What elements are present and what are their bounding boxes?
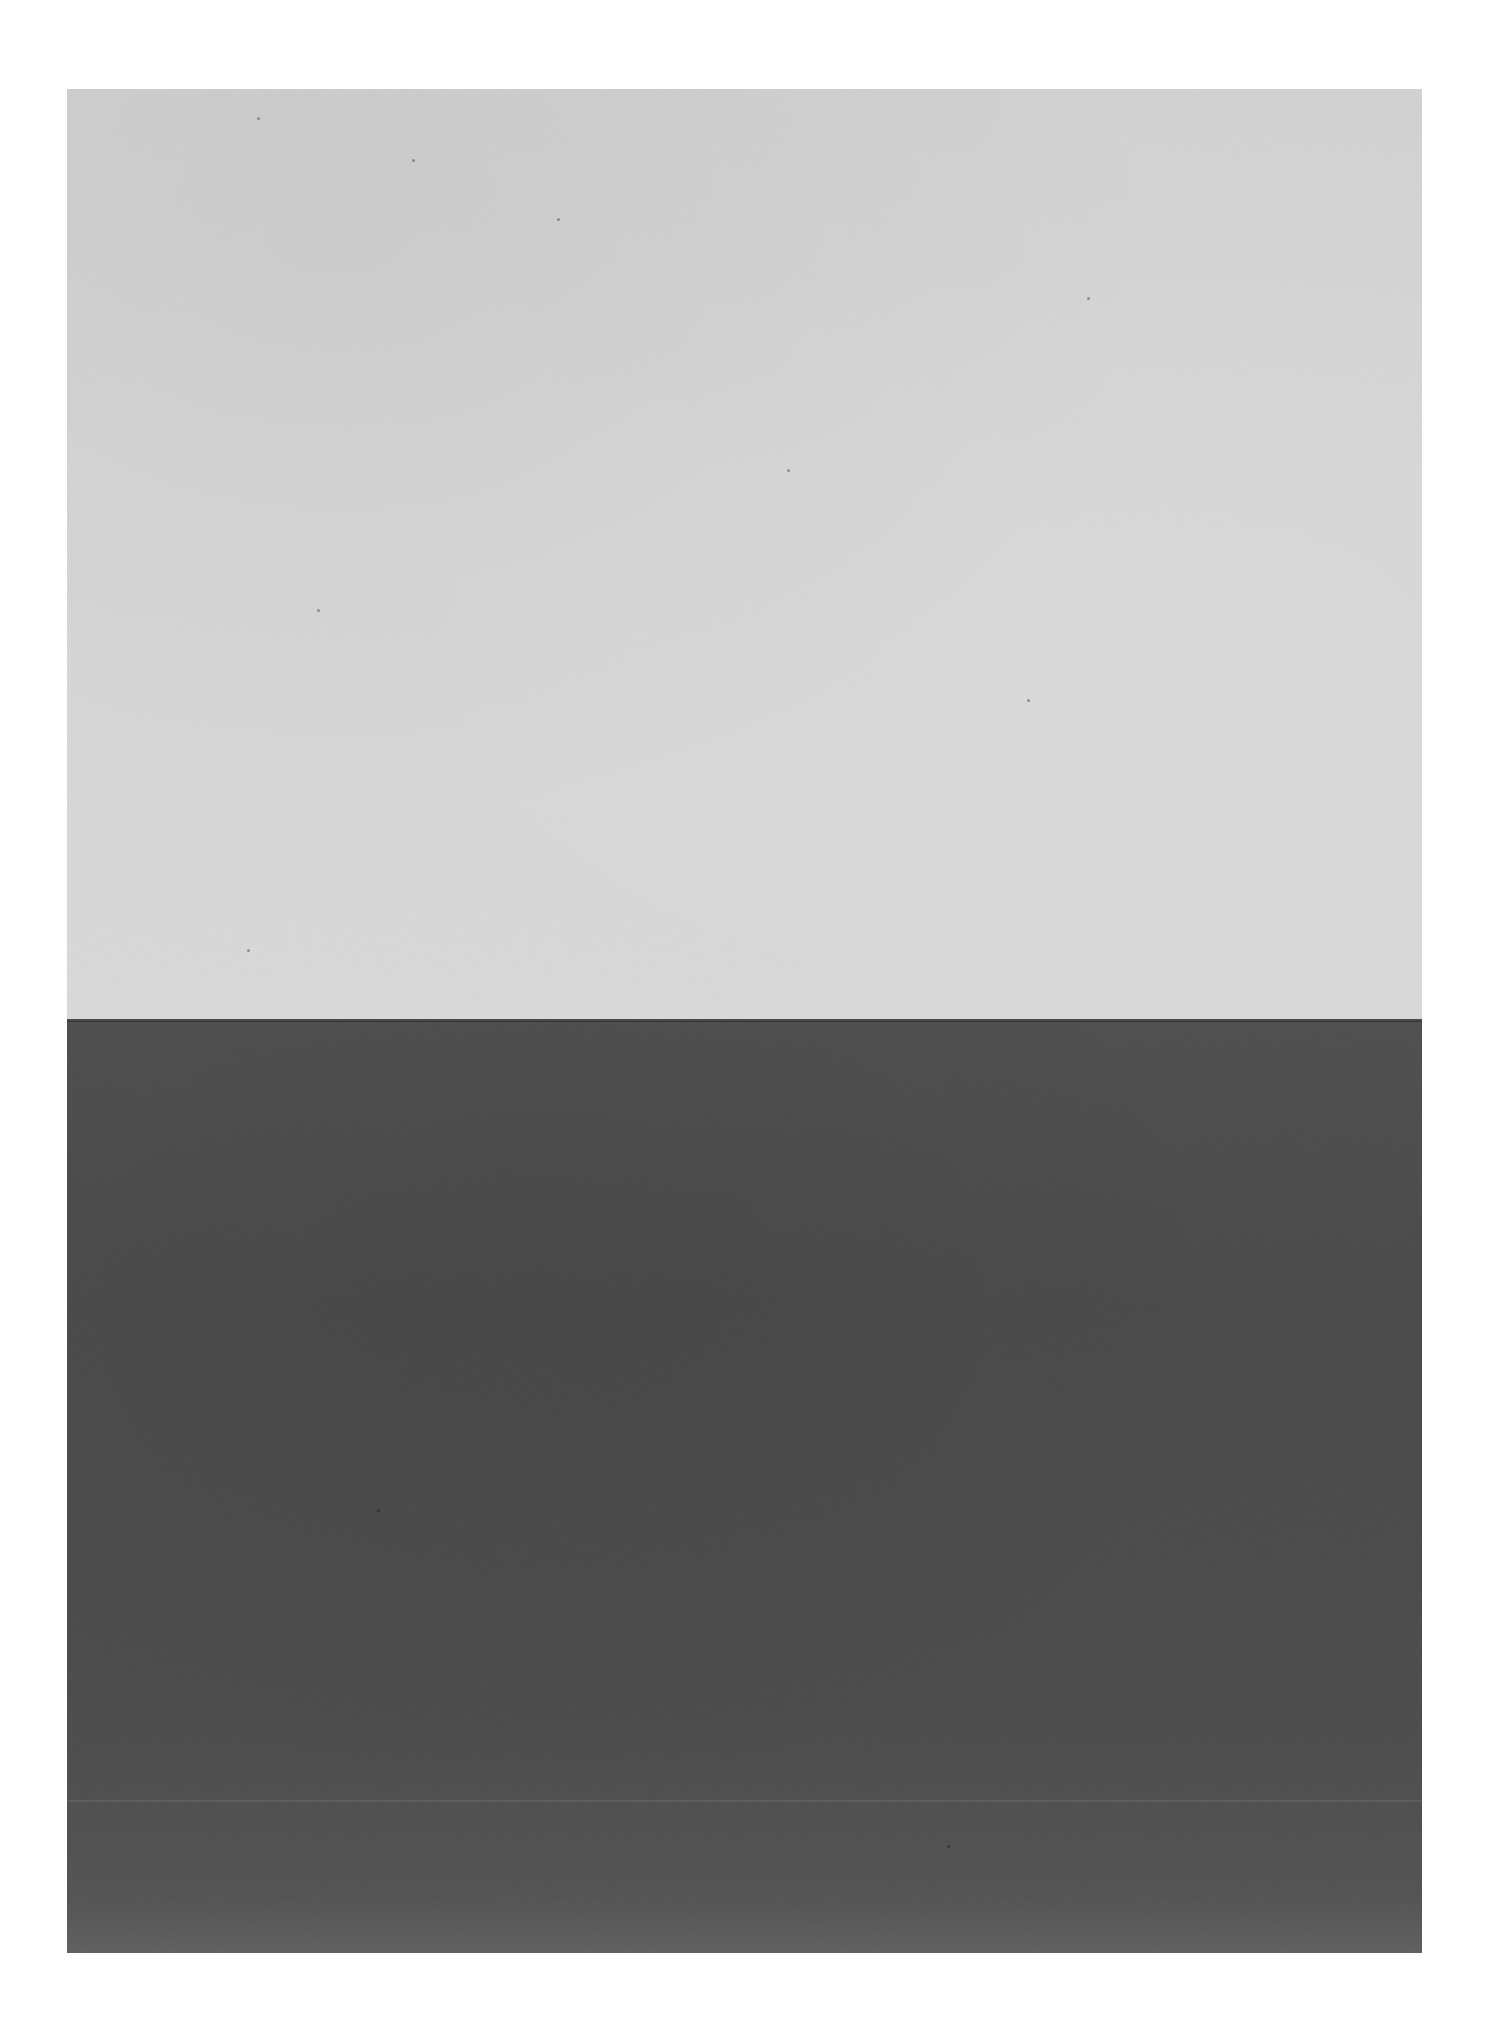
dust-speck [1027, 699, 1030, 702]
dust-speck [377, 1509, 380, 1512]
dust-speck [947, 1845, 950, 1848]
dust-speck [317, 609, 320, 612]
dust-speck [257, 117, 260, 120]
lower-dark-field [67, 1021, 1422, 1953]
artwork-photo [67, 89, 1422, 1953]
dust-speck [787, 469, 790, 472]
dust-speck [557, 218, 560, 221]
dust-speck [247, 949, 250, 952]
upper-gray-field [67, 89, 1422, 1021]
dust-speck [1087, 297, 1090, 300]
faint-scan-line [67, 1800, 1422, 1802]
bottom-edge-glow [67, 1893, 1422, 1953]
horizon-line [67, 1019, 1422, 1022]
dust-speck [412, 159, 415, 162]
